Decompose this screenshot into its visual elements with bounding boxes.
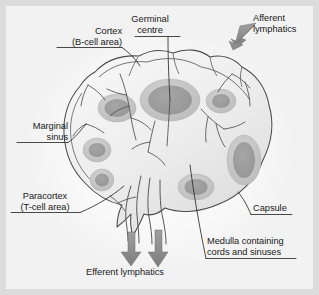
label-cortex: Cortex (B-cell area) [36, 26, 122, 47]
germinal-centre-core [185, 179, 208, 195]
follicle-right-lower [227, 135, 261, 185]
label-paracortex-line1: Paracortex [9, 191, 81, 202]
follicle-bottom-right [178, 174, 214, 200]
label-germinal-centre: Germinal centre [120, 14, 180, 35]
label-afferent-line2: lymphatics [253, 24, 317, 35]
label-cortex-line1: Cortex [36, 26, 122, 37]
label-germinal-line1: Germinal [120, 14, 180, 25]
label-paracortex: Paracortex (T-cell area) [9, 191, 81, 212]
follicle-left-mid [83, 138, 111, 162]
label-marginal-line2: sinus [4, 132, 68, 143]
label-efferent-lymphatics: Efferent lymphatics [68, 267, 182, 278]
germinal-centre-core [233, 142, 255, 178]
afferent-arrow [229, 23, 256, 50]
label-medulla-line1: Medulla containing [207, 236, 301, 247]
label-cortex-line2: (B-cell area) [36, 37, 122, 48]
follicle-upper-right [206, 89, 236, 113]
germinal-centre-core [105, 99, 130, 117]
follicle-left-lower [90, 169, 114, 191]
germinal-centre-core [89, 143, 106, 157]
label-marginal-line1: Marginal [4, 121, 68, 132]
label-afferent-lymphatics: Afferent lymphatics [253, 13, 317, 34]
label-germinal-line2: centre [120, 25, 180, 36]
label-afferent-line1: Afferent [253, 13, 317, 24]
germinal-centre-core [212, 94, 230, 108]
label-medulla-line2: cords and sinuses [207, 247, 301, 258]
label-medulla: Medulla containing cords and sinuses [207, 236, 301, 257]
label-efferent-line1: Efferent lymphatics [68, 267, 182, 278]
germinal-centre-core [95, 174, 109, 187]
label-capsule: Capsule [253, 203, 299, 214]
label-capsule-line1: Capsule [253, 203, 299, 214]
label-paracortex-line2: (T-cell area) [9, 202, 81, 213]
lymph-node-figure: Cortex (B-cell area) Germinal centre Aff… [0, 0, 319, 295]
label-marginal-sinus: Marginal sinus [4, 121, 68, 142]
